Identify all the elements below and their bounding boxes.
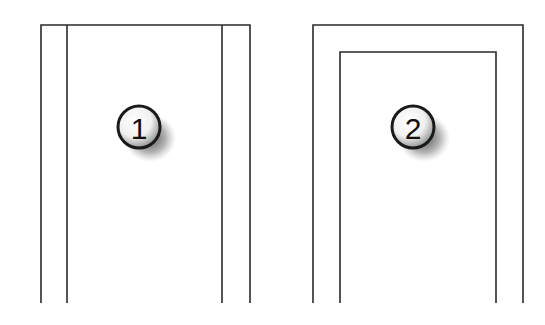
badge-2-label: 2: [405, 112, 422, 145]
number-badge-1: 1: [118, 106, 176, 162]
figure-2-inner-frame: [340, 52, 496, 303]
badge-1-label: 1: [131, 112, 148, 145]
diagram-canvas: 1 2: [0, 0, 545, 325]
figure-2: [313, 25, 523, 303]
figure-1: [41, 25, 250, 303]
figure-2-outer-frame: [313, 25, 523, 303]
figure-1-outer-frame: [41, 25, 250, 303]
number-badge-2: 2: [392, 106, 450, 162]
